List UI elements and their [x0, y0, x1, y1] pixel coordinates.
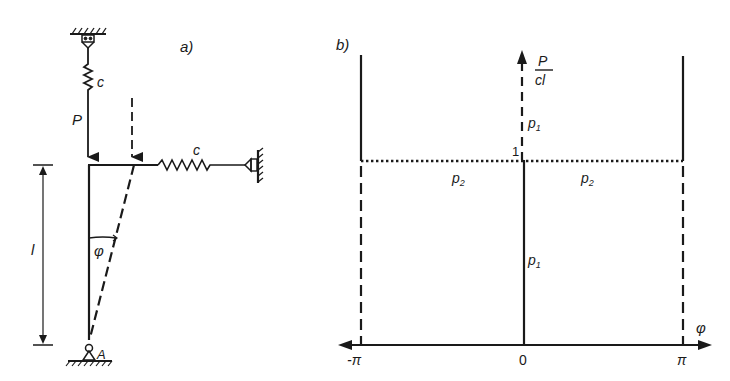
level-one-label: 1	[512, 144, 519, 159]
panel-b-label: b)	[336, 36, 349, 53]
p2-left-label: p2	[451, 170, 465, 188]
panel-a-label: a)	[180, 38, 193, 55]
figure-canvas: a) c P c	[0, 0, 730, 381]
top-spring	[84, 48, 92, 100]
p2-right-label: p2	[580, 170, 594, 188]
x-tick-pi: π	[677, 352, 687, 368]
x-axis-right-arrow	[698, 340, 712, 350]
y-axis-arrow	[517, 50, 527, 64]
panel-a: a) c P c	[31, 28, 263, 366]
right-spring-label: c	[193, 142, 200, 158]
y-axis-label-den: cl	[535, 72, 546, 88]
length-label: l	[31, 241, 35, 258]
x-tick-zero: 0	[519, 352, 527, 368]
x-tick-neg-pi: -π	[347, 352, 362, 368]
angle-label: φ	[94, 242, 104, 259]
wall-support-icon	[245, 148, 263, 183]
right-spring	[158, 160, 245, 170]
p1-lower-label: p1	[527, 252, 541, 270]
x-axis-label: φ	[696, 319, 706, 336]
p1-upper-label: p1	[527, 115, 541, 133]
y-axis-label-num: P	[538, 53, 548, 69]
length-dimension	[33, 165, 53, 345]
angle-arc	[89, 237, 116, 238]
pivot-label: A	[96, 347, 106, 362]
load-label: P	[72, 111, 82, 128]
panel-b: b) φ P cl 1 p1 p1 p2 p2 -π 0 π	[336, 36, 712, 368]
ceiling-support-icon	[70, 28, 106, 48]
top-spring-label: c	[97, 74, 104, 90]
x-axis-left-arrow	[338, 340, 352, 350]
